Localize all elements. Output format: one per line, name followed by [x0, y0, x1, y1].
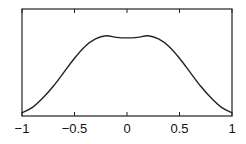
x-tick-label: 0 — [123, 121, 130, 136]
x-tick-label: −1 — [15, 121, 30, 136]
plot-frame — [22, 9, 232, 116]
data-curve — [22, 36, 232, 113]
x-tick-label: −0.5 — [62, 121, 88, 136]
x-tick-label: 1 — [228, 121, 235, 136]
x-axis-ticks — [22, 9, 232, 116]
line-chart: −1−0.500.51 — [0, 0, 246, 144]
x-axis-tick-labels: −1−0.500.51 — [15, 121, 236, 136]
x-tick-label: 0.5 — [170, 121, 188, 136]
